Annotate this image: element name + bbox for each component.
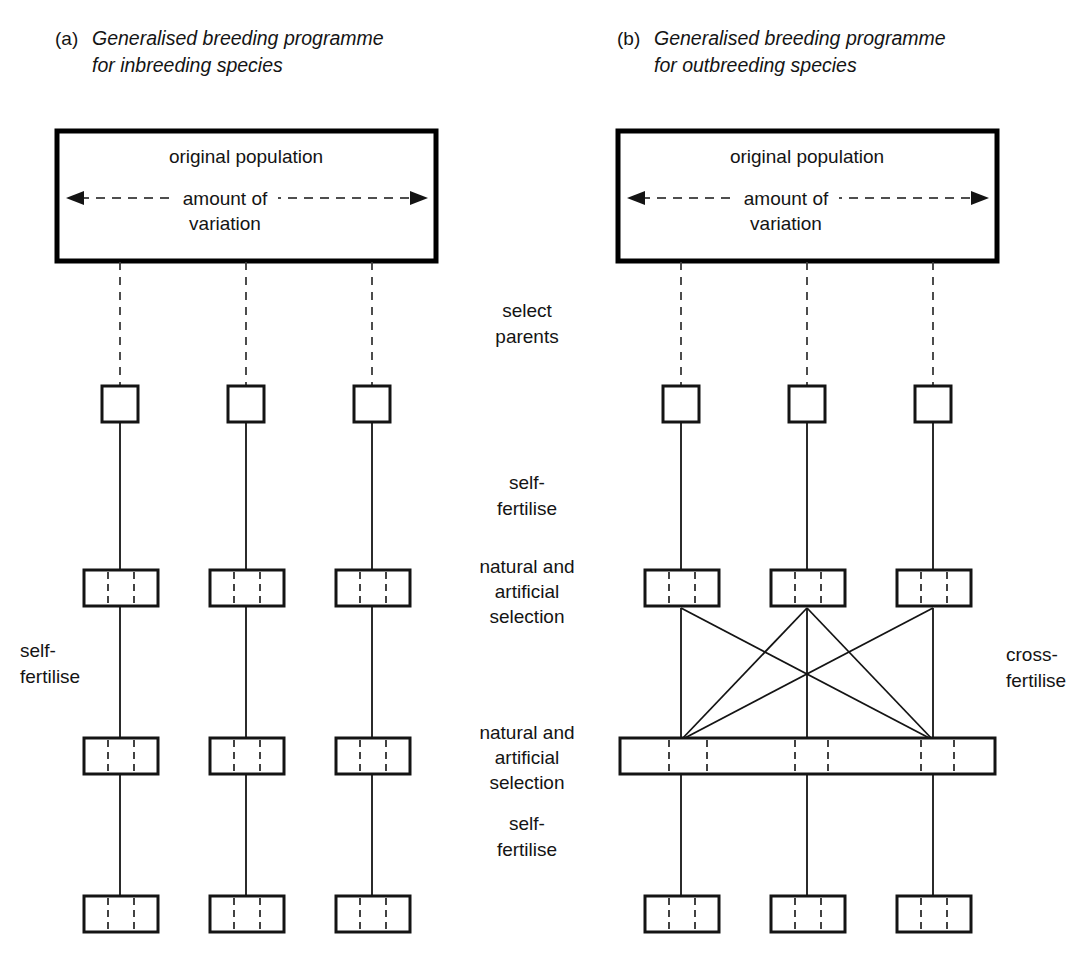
stage-label-2-line-1: natural and: [479, 556, 574, 577]
panel-a-generation-1-row: [84, 570, 410, 606]
stage-label-2-line-3: selection: [490, 606, 565, 627]
panel-b-generation-3-row: [645, 896, 971, 932]
panel-a-caption-line-2: for inbreeding species: [92, 54, 283, 76]
panel-a-gen3-rect-2: [210, 896, 284, 932]
panel-b-caption-line-2: for outbreeding species: [654, 54, 857, 76]
stage-label-1-line-1: self-: [509, 472, 545, 493]
panel-b-gen3-rect-2: [771, 896, 845, 932]
panel-b-variation-label-line-1: amount of: [744, 188, 829, 209]
stage-label-2-line-2: artificial: [495, 581, 559, 602]
stage-label-3-line-3: selection: [490, 772, 565, 793]
panel-a-generation-3-row: [84, 896, 410, 932]
panel-a-generation-2-row: [84, 738, 410, 774]
stage-label-3-line-1: natural and: [479, 722, 574, 743]
panel-b-gen1-rect-2: [771, 570, 845, 606]
breeding-programme-diagram: (a) Generalised breeding programme for i…: [0, 0, 1075, 971]
panel-a-variation-label-line-1: amount of: [183, 188, 268, 209]
panel-b-pooled-rect: [620, 738, 995, 774]
panel-b-gen3-rect-3: [897, 896, 971, 932]
panel-b-gen3-unit-3: [897, 896, 971, 932]
stage-label-4-line-2: fertilise: [497, 839, 557, 860]
panel-b-gen3-unit-1: [645, 896, 719, 932]
panel-a-parent-square-3: [354, 386, 390, 422]
panel-a-population-title: original population: [169, 146, 323, 167]
panel-b-side-label-line-2: fertilise: [1006, 670, 1066, 691]
panel-b-marker: (b): [617, 28, 640, 49]
panel-b-population-box: original population amount of variation: [618, 131, 997, 261]
panel-a-gen3-rect-3: [336, 896, 410, 932]
panel-b-gen3-unit-2: [771, 896, 845, 932]
stage-label-4-line-1: self-: [509, 813, 545, 834]
panel-b-parent-square-1: [663, 386, 699, 422]
panel-b-population-title: original population: [730, 146, 884, 167]
panel-a-gen2-unit-3: [336, 738, 410, 774]
panel-a-gen1-rect-2: [210, 570, 284, 606]
panel-a-gen2-unit-2: [210, 738, 284, 774]
panel-b-generation-2-pooled-bar: [620, 738, 995, 774]
panel-a-population-box: original population amount of variation: [57, 131, 436, 261]
panel-b-parent-square-2: [789, 386, 825, 422]
panel-b-parent-square-3: [915, 386, 951, 422]
panel-a-gen1-unit-1: [84, 570, 158, 606]
stage-label-3-line-2: artificial: [495, 747, 559, 768]
panel-b-gen1-unit-2: [771, 570, 845, 606]
panel-a-gen1-rect-1: [84, 570, 158, 606]
panel-b-gen1-unit-1: [645, 570, 719, 606]
panel-a-marker: (a): [55, 28, 78, 49]
panel-b-gen1-rect-3: [897, 570, 971, 606]
panel-a-gen1-unit-2: [210, 570, 284, 606]
panel-a-parent-square-1: [102, 386, 138, 422]
panel-a-gen1-rect-3: [336, 570, 410, 606]
panel-a-side-label-line-2: fertilise: [20, 666, 80, 687]
panel-a-gen2-rect-2: [210, 738, 284, 774]
stage-label-1-line-2: fertilise: [497, 498, 557, 519]
panel-a-gen2-rect-3: [336, 738, 410, 774]
panel-b-caption-line-1: Generalised breeding programme: [654, 27, 946, 49]
panel-a-variation-label-line-2: variation: [189, 213, 261, 234]
panel-a-gen1-unit-3: [336, 570, 410, 606]
panel-a-gen3-unit-2: [210, 896, 284, 932]
panel-b-gen1-rect-1: [645, 570, 719, 606]
panel-a-caption-line-1: Generalised breeding programme: [92, 27, 384, 49]
panel-a-parent-square-2: [228, 386, 264, 422]
panel-b-side-label-line-1: cross-: [1006, 644, 1058, 665]
panel-a-side-label-line-1: self-: [20, 640, 56, 661]
panel-a-gen2-rect-1: [84, 738, 158, 774]
panel-b-gen1-unit-3: [897, 570, 971, 606]
panel-b-variation-label-line-2: variation: [750, 213, 822, 234]
panel-a-gen3-unit-3: [336, 896, 410, 932]
panel-b-generation-1-row: [645, 570, 971, 606]
panel-a-gen3-rect-1: [84, 896, 158, 932]
stage-label-0-line-1: select: [502, 300, 552, 321]
panel-b-gen3-rect-1: [645, 896, 719, 932]
panel-a-gen2-unit-1: [84, 738, 158, 774]
stage-label-0-line-2: parents: [495, 326, 558, 347]
panel-a-gen3-unit-1: [84, 896, 158, 932]
